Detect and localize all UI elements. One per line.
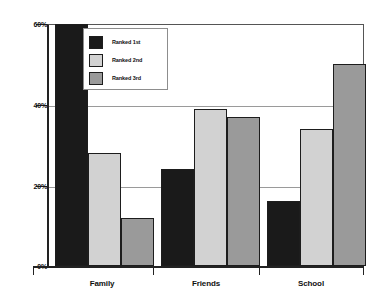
x-axis-tick-2 — [259, 268, 260, 275]
legend-item-ranked-2nd: Ranked 2nd — [84, 51, 167, 69]
legend-label-ranked-3rd: Ranked 3rd — [112, 75, 141, 81]
bar-school-ranked-1st — [267, 201, 300, 266]
y-axis: 60% 40% 20% 0% — [0, 0, 47, 303]
legend-swatch-ranked-1st — [89, 36, 103, 49]
bar-friends-ranked-1st — [161, 169, 194, 266]
x-axis-tick-start — [33, 268, 34, 275]
legend-item-ranked-1st: Ranked 1st — [84, 33, 167, 51]
bar-family-ranked-3rd — [121, 218, 154, 266]
legend-label-ranked-2nd: Ranked 2nd — [112, 57, 142, 63]
x-category-label-family: Family — [57, 279, 147, 288]
bar-friends-ranked-2nd — [194, 109, 227, 266]
x-axis-tick-end — [363, 268, 364, 275]
x-axis: Family Friends School — [47, 268, 364, 303]
bar-friends-ranked-3rd — [227, 117, 260, 266]
bar-school-ranked-3rd — [333, 64, 366, 266]
legend-swatch-ranked-2nd — [89, 54, 103, 67]
legend: Ranked 1st Ranked 2nd Ranked 3rd — [83, 28, 168, 90]
x-axis-tick-1 — [153, 268, 154, 275]
x-category-label-friends: Friends — [161, 279, 251, 288]
legend-item-ranked-3rd: Ranked 3rd — [84, 69, 167, 87]
y-tick-label-40: 40% — [19, 102, 47, 109]
bar-chart: 60% 40% 20% 0% Family Friends School R — [0, 0, 379, 303]
y-tick-label-20: 20% — [19, 183, 47, 190]
bar-family-ranked-2nd — [88, 153, 121, 266]
legend-label-ranked-1st: Ranked 1st — [112, 39, 140, 45]
x-category-label-school: School — [266, 279, 356, 288]
bar-school-ranked-2nd — [300, 129, 333, 266]
legend-swatch-ranked-3rd — [89, 72, 103, 85]
y-tick-label-60: 60% — [19, 21, 47, 28]
